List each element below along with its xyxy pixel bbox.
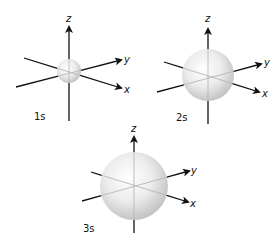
x-axis-front [167, 195, 188, 202]
y-axis-label: y [190, 165, 198, 176]
y-axis-label: y [123, 54, 131, 65]
x-axis-label: x [189, 198, 196, 209]
y-axis-front [234, 64, 261, 71]
orbital-label-2s: 2s [176, 112, 188, 123]
z-axis-label: z [204, 13, 211, 24]
x-axis-label: x [123, 84, 130, 95]
s-orbitals-diagram: zyx1s zyx2s zyx3s [0, 0, 279, 245]
y-axis-back [16, 76, 58, 87]
orbital-1s-group: zyx1s [16, 13, 131, 122]
x-axis-back [24, 58, 57, 68]
z-axis-label: z [65, 13, 72, 24]
x-axis-label: x [261, 88, 268, 99]
orbital-3s-group: zyx3s [82, 123, 198, 234]
y-axis-back [82, 196, 101, 201]
y-axis-label: y [263, 57, 271, 68]
z-axis-label: z [130, 123, 137, 134]
x-axis-back [164, 62, 183, 68]
y-axis-front [81, 60, 121, 70]
y-axis-back [157, 85, 184, 92]
x-axis-front [233, 84, 259, 92]
x-axis-front [80, 75, 121, 88]
y-axis-front [167, 171, 189, 177]
orbital-label-3s: 3s [83, 223, 95, 234]
orbital-label-1s: 1s [34, 111, 46, 122]
orbital-2s-group: zyx2s [157, 13, 271, 124]
x-axis-back [91, 172, 102, 175]
